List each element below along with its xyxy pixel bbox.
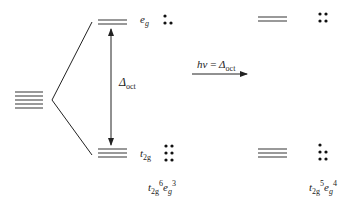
excited-t2g-electron-dots (318, 143, 327, 160)
hv-text: hν (197, 58, 207, 70)
delta-sub: oct (226, 64, 236, 73)
ground-t2g-level (98, 149, 127, 157)
config-e-sup: 3 (172, 179, 176, 188)
ground-eg-level (98, 20, 127, 24)
delta-oct-label: Δoct (119, 76, 136, 91)
excited-configuration-label: t2g5eg4 (309, 180, 337, 196)
config-e-sup: 4 (333, 179, 337, 188)
ground-t2g-label: t2g (140, 148, 151, 162)
equals-sign: = (207, 58, 219, 70)
excited-t2g-level (258, 149, 287, 157)
degenerate-d-levels (15, 92, 43, 108)
ground-t2g-electron-dots (164, 144, 173, 161)
config-t-sub: 2g (312, 187, 320, 196)
ground-eg-label: eg (140, 14, 149, 28)
splitting-lines (52, 22, 92, 155)
config-e-sub: g (168, 187, 172, 196)
transition-label: hν = Δoct (197, 59, 235, 73)
eg-sub: g (145, 19, 149, 28)
delta-sub: oct (126, 82, 136, 91)
config-t-sub: 2g (151, 187, 159, 196)
ground-eg-electron-dots (163, 14, 172, 24)
t2g-sub: 2g (143, 153, 151, 162)
excited-eg-level (258, 17, 287, 21)
crystal-field-diagram (0, 0, 354, 203)
delta-symbol: Δ (119, 75, 126, 89)
ground-configuration-label: t2g6eg3 (148, 180, 176, 196)
config-e-sub: g (329, 187, 333, 196)
excited-eg-electron-dots (318, 12, 327, 22)
